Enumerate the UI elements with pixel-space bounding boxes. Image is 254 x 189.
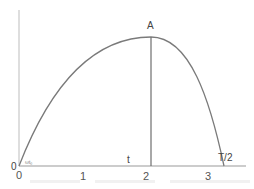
time-label: t xyxy=(127,155,130,165)
half-sine-curve xyxy=(19,37,224,166)
peak-label: A xyxy=(147,21,154,31)
blurred-caption-1 xyxy=(30,180,80,183)
x-tick-1: 1 xyxy=(80,171,86,182)
half-period-label: T/2 xyxy=(218,153,232,163)
blurred-caption-2 xyxy=(95,180,155,183)
origin-x-label: 0 xyxy=(16,170,22,181)
origin-small-label: ωt₀ xyxy=(25,160,32,165)
blurred-caption-3 xyxy=(170,180,250,183)
